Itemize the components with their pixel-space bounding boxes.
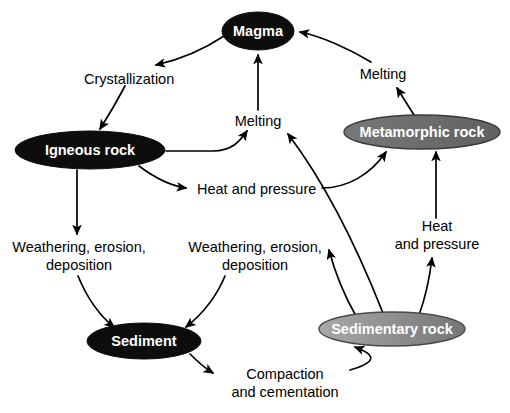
edge-metamorphic-to-melting-right [397,88,414,115]
edge-crystallization-to-igneous [100,86,125,129]
diagram-canvas: Magma Igneous rock Metamorphic rock Sedi… [0,0,510,413]
edge-sediment-to-compaction [190,354,213,373]
node-sedimentary-rock[interactable]: Sedimentary rock [319,312,465,346]
edge-compaction-to-sedimentary [350,347,371,370]
edge-label-melting-center: Melting [235,113,282,129]
edge-label-weathering-left-line1: Weathering, erosion, [12,239,146,255]
edge-label-heat-and-pressure-right-line2: and pressure [395,236,480,252]
edge-melting-right-to-magma [300,32,371,62]
edge-label-weathering-left-line2: deposition [46,257,112,273]
node-magma[interactable]: Magma [222,12,294,50]
node-sedimentary-rock-label: Sedimentary rock [331,321,454,337]
node-sediment-label: Sediment [111,333,176,349]
edge-label-heat-and-pressure-center: Heat and pressure [197,181,316,197]
edge-label-melting-right: Melting [360,66,407,82]
edge-label-crystallization: Crystallization [84,71,174,87]
edge-igneous-to-melting [166,131,247,151]
node-sediment[interactable]: Sediment [87,323,201,359]
rock-cycle-diagram: Magma Igneous rock Metamorphic rock Sedi… [0,0,510,413]
node-igneous-rock[interactable]: Igneous rock [15,131,165,169]
edge-sedimentary-to-weathering-right [329,250,356,316]
edge-label-heat-and-pressure-right-line1: Heat [422,218,453,234]
edge-label-compaction-line2: and cementation [231,384,338,400]
edge-label-weathering-right-line2: deposition [222,257,288,273]
edge-sedimentary-to-melting-center [288,134,383,313]
edge-igneous-to-heat-and-pressure [139,166,186,188]
edge-label-compaction-line1: Compaction [246,366,323,382]
node-metamorphic-rock[interactable]: Metamorphic rock [344,115,500,149]
edge-magma-to-crystallization [156,36,224,65]
edge-weathering-left-to-sediment [78,276,114,327]
edge-weathering-right-to-sediment [186,276,225,327]
edge-sedimentary-to-heat-and-pressure-right [419,258,432,315]
node-igneous-rock-label: Igneous rock [45,142,136,158]
node-magma-label: Magma [233,23,284,39]
edge-heat-and-pressure-to-metamorphic [322,152,386,188]
edge-label-weathering-right-line1: Weathering, erosion, [188,239,322,255]
node-metamorphic-rock-label: Metamorphic rock [360,124,486,140]
